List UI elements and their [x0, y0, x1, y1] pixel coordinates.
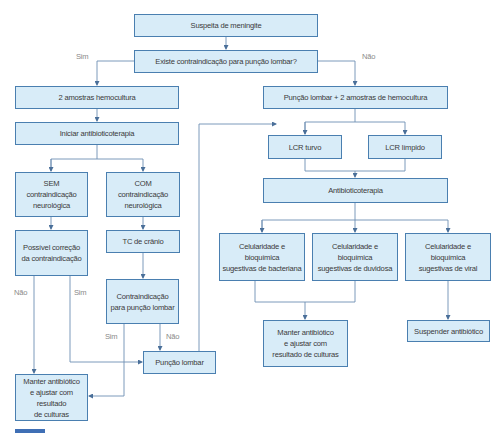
figure-caption-fragment [15, 429, 45, 433]
node-com-contraindicacao: COM contraindicação neurológica [106, 172, 180, 217]
node-suspeita-meningite: Suspeita de meningite [134, 14, 318, 37]
node-suspender-antibiotico: Suspender antibiótico [407, 320, 490, 342]
node-puncao-hemocultura: Punção lombar + 2 amostras de hemocultur… [263, 86, 448, 109]
node-possivel-correcao: Possível correção da contraindicação [15, 230, 88, 276]
node-tc-cranio: TC de crânio [106, 230, 180, 253]
node-contraindicacao-pl: Contraindicação para punção lombar [106, 279, 179, 324]
label-nao-contra: Não [166, 332, 179, 341]
node-contraindicacao-puncao: Existe contraindicação para punção lomba… [134, 50, 318, 73]
label-sim-contra: Sim [105, 332, 117, 341]
node-cel-duvidosa: Celularidade e bioquímica sugestivas de … [312, 233, 398, 281]
node-sem-contraindicacao: SEM contraindicação neurológica [15, 172, 88, 217]
node-iniciar-antibioticoterapia: Iniciar antibioticoterapia [15, 122, 179, 145]
node-puncao-lombar: Punção lombar [143, 351, 216, 374]
node-2-amostras-hemocultura: 2 amostras hemocultura [15, 86, 179, 109]
node-lcr-limpido: LCR límpido [368, 135, 442, 159]
label-nao-top: Não [362, 52, 375, 61]
label-sim-left: Sim [74, 288, 86, 297]
node-cel-bacteriana: Celularidade e bioquímica sugestivas de … [219, 233, 305, 281]
node-cel-viral: Celularidade e bioquímica sugestivas de … [405, 233, 491, 281]
node-antibioticoterapia: Antibioticoterapia [263, 178, 448, 203]
node-manter-antibiotico-right: Manter antibiótico e ajustar com resulta… [263, 320, 348, 367]
label-nao-left: Não [14, 288, 27, 297]
node-manter-antibiotico-left: Manter antibiótico e ajustar com resulta… [15, 374, 88, 421]
label-sim-top: Sim [76, 52, 88, 61]
node-lcr-turvo: LCR turvo [268, 135, 342, 159]
